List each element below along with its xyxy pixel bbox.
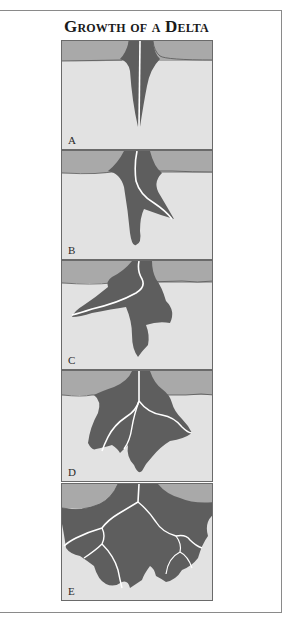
delta-diagram-d (62, 371, 213, 482)
delta-diagram-c (62, 261, 213, 370)
panel-label-c: C (68, 354, 75, 366)
panel-label-e: E (68, 585, 75, 597)
panel-e: E (61, 483, 213, 601)
panel-a: A (61, 40, 213, 150)
panel-label-a: A (68, 134, 76, 146)
panel-label-b: B (68, 244, 75, 256)
panel-d: D (61, 370, 213, 482)
figure-title: Growth of a Delta (0, 17, 273, 37)
panel-c: C (61, 260, 213, 370)
delta-diagram-e (62, 484, 213, 601)
panel-b: B (61, 150, 213, 260)
delta-diagram-a (62, 41, 213, 150)
delta-diagram-b (62, 151, 213, 260)
panel-label-d: D (68, 466, 76, 478)
